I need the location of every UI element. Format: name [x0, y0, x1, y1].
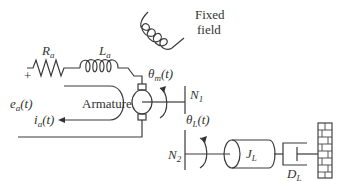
ra-label: Ra: [41, 43, 55, 60]
fixed-wall: [318, 123, 332, 178]
damper: [274, 143, 318, 165]
inductor-la: [80, 60, 142, 84]
dc-motor-diagram: Fixed field Ra + La Armature ea(t) ia(t)…: [0, 0, 339, 181]
la-label: La: [98, 43, 111, 60]
ea-label: ea(t): [10, 96, 33, 113]
fixed-field-label-2: field: [197, 22, 221, 37]
fixed-field-coil: [141, 12, 184, 49]
n2-label: N2: [167, 147, 182, 164]
jl-label: JL: [246, 146, 257, 163]
rotation-arrowhead-icon: [160, 86, 166, 93]
theta-l-rotation-arrow: [200, 138, 207, 168]
theta-m-rotation-arrow: [160, 88, 167, 118]
plus-sign: +: [24, 68, 31, 83]
fixed-field-label: Fixed: [195, 7, 225, 22]
resistor-ra: [27, 60, 80, 76]
theta-l-label: θL(t): [186, 112, 210, 129]
current-arrow-icon: [58, 117, 65, 123]
dl-label: DL: [286, 166, 301, 181]
n1-label: N1: [189, 87, 203, 104]
ia-label: ia(t): [34, 112, 54, 129]
armature-label: Armature: [82, 96, 132, 111]
theta-m-label: θm(t): [148, 66, 173, 83]
